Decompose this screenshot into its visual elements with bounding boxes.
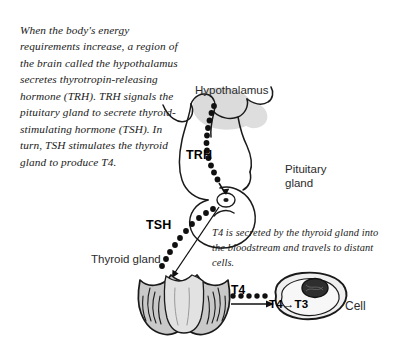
thyroid-gland-illustration xyxy=(138,275,230,335)
label-pituitary-gland: Pituitary gland xyxy=(285,163,327,190)
label-tsh: TSH xyxy=(146,218,172,232)
pituitary-target-marker xyxy=(217,193,235,207)
t4-note-paragraph: T4 is secreted by the thyroid gland into… xyxy=(212,225,392,271)
label-trh: TRH xyxy=(186,148,212,162)
tsh-dotted-pathway xyxy=(159,206,219,278)
intro-paragraph: When the body's energy requirements incr… xyxy=(20,22,180,170)
label-t4-to-t3: T4→T3 xyxy=(269,298,308,310)
label-hypothalamus: Hypothalamus xyxy=(195,84,269,98)
label-t4: T4 xyxy=(231,283,245,297)
cell-nucleus xyxy=(302,279,328,298)
target-cell-illustration xyxy=(276,273,347,320)
label-cell: Cell xyxy=(345,299,366,313)
label-thyroid-gland: Thyroid gland xyxy=(91,253,161,267)
figure-canvas: When the body's energy requirements incr… xyxy=(0,0,397,344)
